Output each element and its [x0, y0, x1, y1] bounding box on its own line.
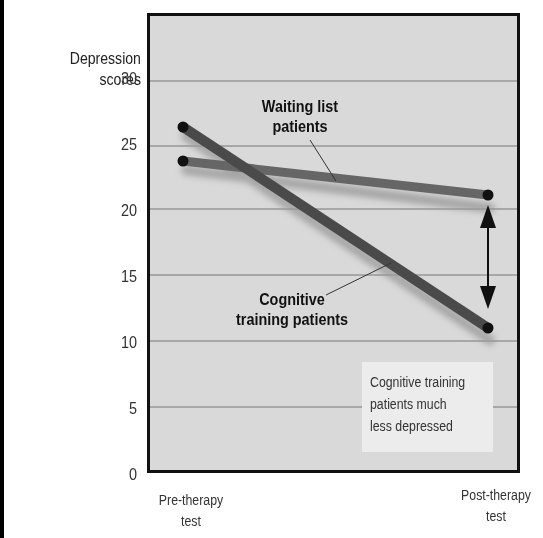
x-tick-pre-line1: Pre-therapy	[151, 490, 230, 511]
waiting-pre-marker	[178, 156, 189, 167]
chart-svg	[0, 0, 543, 538]
note-line2: patients much	[370, 393, 471, 415]
x-tick-post-line2: test	[452, 506, 540, 527]
x-tick-post-therapy: Post-therapy test	[452, 485, 540, 527]
difference-arrow	[480, 205, 496, 309]
waiting-label-line1: Waiting list	[251, 97, 350, 117]
note-line1: Cognitive training	[370, 371, 471, 393]
cognitive-pre-marker	[178, 122, 189, 133]
cognitive-training-label: Cognitive training patients	[229, 290, 355, 330]
cognitive-label-line1: Cognitive	[229, 290, 355, 310]
x-tick-post-line1: Post-therapy	[452, 485, 540, 506]
x-tick-pre-therapy: Pre-therapy test	[151, 490, 230, 532]
waiting-label-line2: patients	[251, 117, 350, 137]
cognitive-post-marker	[483, 323, 494, 334]
note-line3: less depressed	[370, 415, 471, 437]
cognitive-label-line2: training patients	[229, 310, 355, 330]
x-tick-pre-line2: test	[151, 511, 230, 532]
waiting-list-label: Waiting list patients	[251, 97, 350, 137]
annotation-box: Cognitive training patients much less de…	[362, 362, 493, 452]
waiting-post-marker	[483, 190, 494, 201]
